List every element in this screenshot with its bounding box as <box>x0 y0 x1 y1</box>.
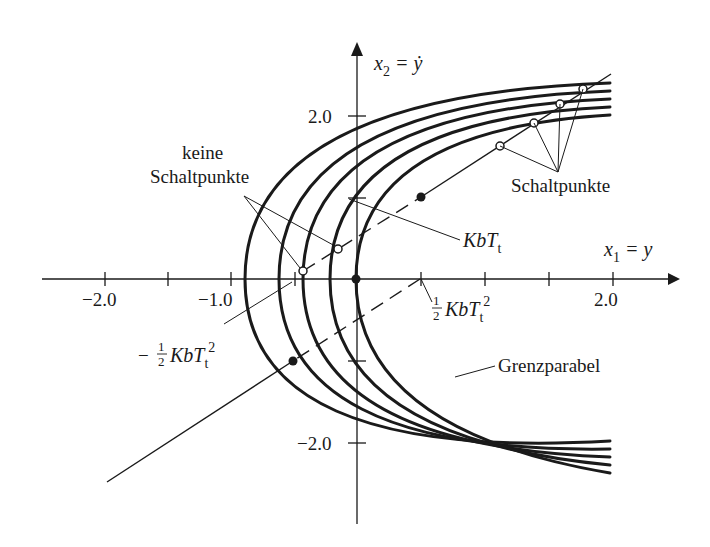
kbtt-label: KbTt <box>462 229 501 256</box>
upper-switch-start-point <box>417 193 426 202</box>
svg-text:1: 1 <box>158 339 165 354</box>
neg-half-kbtt2-label: − 1 2 KbTt2 <box>138 339 215 371</box>
y-tick-label-2: 2.0 <box>308 106 332 127</box>
y-axis-label: x2 = ẏ <box>373 52 422 79</box>
axes <box>42 42 680 524</box>
svg-text:2: 2 <box>433 308 440 323</box>
keine-schaltpunkte-label-line2: Schaltpunkte <box>150 166 249 187</box>
phase-plane-diagram: −2.0 −1.0 2.0 2.0 −2.0 x2 = ẏ x1 = y <box>0 0 710 547</box>
y-axis-arrow-icon <box>351 42 363 56</box>
grenzparabel-label: Grenzparabel <box>498 355 600 376</box>
trajectory-1 <box>245 83 610 443</box>
schaltpunkte-label: Schaltpunkte <box>511 175 610 196</box>
svg-text:2: 2 <box>158 354 165 369</box>
trajectory-4 <box>330 107 610 465</box>
x-tick-label-neg2: −2.0 <box>82 289 116 310</box>
y-tick-label-neg2: −2.0 <box>297 433 331 454</box>
keine-schaltpunkte-label-line1: keine <box>182 142 223 163</box>
keine-schaltpunkt-2 <box>334 245 342 253</box>
svg-text:KbTt2: KbTt2 <box>444 294 490 325</box>
svg-text:1: 1 <box>433 293 440 308</box>
switching-line-lower <box>107 361 293 482</box>
svg-text:−: − <box>138 345 149 366</box>
trajectory-2 <box>279 91 610 449</box>
origin-point <box>352 275 361 284</box>
x-axis-label: x1 = y <box>603 238 652 265</box>
keine-schaltpunkt-1 <box>299 267 307 275</box>
lower-switch-point <box>289 357 298 366</box>
x-tick-label-neg1: −1.0 <box>198 289 232 310</box>
half-kbtt2-label: 1 2 KbTt2 <box>432 293 490 325</box>
trajectories <box>245 83 610 473</box>
leader-lines <box>224 89 583 377</box>
x-tick-label-2: 2.0 <box>594 289 618 310</box>
x-axis-arrow-icon <box>668 273 680 285</box>
svg-text:KbTt2: KbTt2 <box>169 340 215 371</box>
